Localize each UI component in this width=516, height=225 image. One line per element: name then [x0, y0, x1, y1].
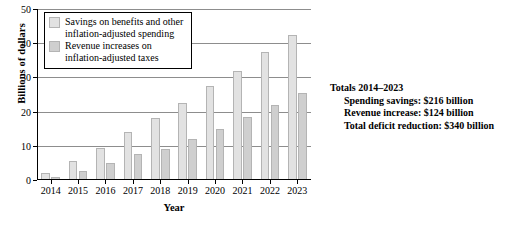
legend-item-savings: Savings on benefits and other inflation-… — [49, 16, 183, 39]
y-tick-label: 20 — [21, 106, 31, 117]
totals-line-spending-savings: Spending savings: $216 billion — [344, 95, 494, 108]
bar-savings — [151, 118, 160, 180]
x-tick-mark — [215, 180, 216, 184]
bar-savings — [69, 161, 78, 180]
bar-savings — [288, 35, 297, 180]
x-tick-label: 2021 — [229, 185, 256, 196]
y-axis-line — [37, 9, 38, 180]
bar-group: 2021 — [229, 9, 256, 180]
x-tick-label: 2019 — [174, 185, 201, 196]
y-tick-mark — [33, 180, 37, 181]
y-tick-label: 50 — [21, 4, 31, 15]
bar-savings — [261, 52, 270, 180]
chart-legend: Savings on benefits and other inflation-… — [44, 12, 192, 69]
x-tick-label: 2014 — [37, 185, 64, 196]
x-tick-label: 2017 — [119, 185, 146, 196]
y-tick-label: 40 — [21, 38, 31, 49]
legend-swatch-revenue-icon — [49, 41, 60, 52]
legend-swatch-savings-icon — [49, 17, 60, 28]
bar-group: 2020 — [201, 9, 228, 180]
bar-revenue — [106, 163, 115, 180]
x-tick-mark — [105, 180, 106, 184]
y-tick-label: 0 — [26, 175, 31, 186]
bar-group: 2022 — [256, 9, 283, 180]
x-axis-title: Year — [37, 202, 311, 213]
bar-revenue — [216, 129, 225, 180]
bar-savings — [206, 86, 215, 180]
totals-line-deficit-reduction: Total deficit reduction: $340 billion — [344, 120, 494, 133]
x-tick-mark — [133, 180, 134, 184]
bar-group: 2023 — [284, 9, 311, 180]
legend-label-revenue: Revenue increases on inflation-adjusted … — [65, 40, 159, 63]
x-tick-mark — [51, 180, 52, 184]
bar-savings — [124, 132, 133, 180]
x-tick-mark — [242, 180, 243, 184]
x-tick-label: 2015 — [64, 185, 91, 196]
bar-revenue — [243, 117, 252, 180]
bar-savings — [96, 148, 105, 180]
x-tick-label: 2023 — [284, 185, 311, 196]
x-tick-label: 2018 — [147, 185, 174, 196]
x-tick-label: 2020 — [201, 185, 228, 196]
x-tick-label: 2016 — [92, 185, 119, 196]
legend-item-revenue: Revenue increases on inflation-adjusted … — [49, 40, 183, 63]
bar-savings — [233, 71, 242, 180]
bar-revenue — [161, 149, 170, 180]
bar-revenue — [271, 105, 280, 180]
totals-heading: Totals 2014–2023 — [330, 82, 494, 95]
bar-revenue — [298, 93, 307, 180]
y-tick-label: 10 — [21, 140, 31, 151]
totals-line-revenue-increase: Revenue increase: $124 billion — [344, 107, 494, 120]
x-tick-mark — [297, 180, 298, 184]
x-tick-mark — [78, 180, 79, 184]
legend-label-savings: Savings on benefits and other inflation-… — [65, 16, 183, 39]
x-tick-mark — [188, 180, 189, 184]
x-axis-line — [37, 179, 311, 180]
chart-figure: Billions of dollars 01020304050 20142015… — [0, 0, 516, 225]
x-tick-mark — [270, 180, 271, 184]
bar-revenue — [188, 139, 197, 180]
bar-savings — [178, 103, 187, 180]
x-tick-label: 2022 — [256, 185, 283, 196]
bar-revenue — [134, 154, 143, 180]
totals-annotation: Totals 2014–2023 Spending savings: $216 … — [330, 82, 494, 132]
y-tick-label: 30 — [21, 72, 31, 83]
x-tick-mark — [160, 180, 161, 184]
